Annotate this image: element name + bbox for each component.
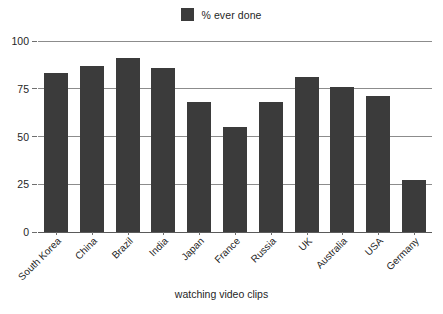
x-axis-tick-label: Australia — [315, 236, 350, 271]
bar — [80, 66, 104, 232]
x-axis-tick-label: France — [213, 236, 242, 265]
x-axis-tick-mark — [378, 232, 379, 235]
y-axis-tick-mark — [32, 88, 37, 89]
y-axis-tick-label: 25 — [17, 179, 29, 190]
bar — [259, 102, 283, 232]
x-axis-tick-mark — [235, 232, 236, 235]
plot-area: 0255075100 — [38, 41, 432, 232]
bar-series — [38, 41, 432, 232]
y-axis-tick-label: 100 — [11, 36, 29, 47]
x-axis-tick-mark — [307, 232, 308, 235]
chart-legend: % ever done — [0, 8, 443, 21]
x-axis-tick-mark — [199, 232, 200, 235]
x-axis-tick-label: India — [148, 236, 170, 258]
x-axis-tick-mark — [128, 232, 129, 235]
y-axis-tick-label: 0 — [23, 227, 29, 238]
bar — [366, 96, 390, 232]
legend-entry: % ever done — [181, 8, 261, 21]
x-axis-tick-label: Brazil — [110, 236, 135, 261]
x-axis-tick-label: China — [73, 236, 99, 262]
x-axis-tick-mark — [92, 232, 93, 235]
x-axis-tick-label: South Korea — [17, 236, 63, 282]
x-axis-tick-mark — [414, 232, 415, 235]
legend-swatch-pct-ever-done — [181, 8, 194, 21]
bar-chart: % ever done 0255075100 South KoreaChinaB… — [0, 0, 443, 314]
x-axis-tick-label: Germany — [385, 236, 421, 272]
bar — [151, 68, 175, 232]
y-axis-tick-label: 50 — [17, 131, 29, 142]
x-axis-tick-label: Russia — [249, 236, 278, 265]
y-axis-tick-label: 75 — [17, 84, 29, 95]
x-axis-tick-label: Japan — [180, 236, 206, 262]
legend-label: % ever done — [201, 9, 261, 21]
x-axis-tick-mark — [342, 232, 343, 235]
bar — [330, 87, 354, 232]
bar — [44, 73, 68, 232]
y-axis-tick-mark — [32, 184, 37, 185]
bar — [116, 58, 140, 232]
x-axis-ticks: South KoreaChinaBrazilIndiaJapanFranceRu… — [38, 234, 432, 286]
y-axis-tick-mark — [32, 136, 37, 137]
bar — [295, 77, 319, 232]
x-axis-title: watching video clips — [0, 288, 443, 300]
bar — [402, 180, 426, 232]
x-axis-tick-label: USA — [364, 236, 386, 258]
bar — [223, 127, 247, 232]
x-axis-tick-label: UK — [297, 236, 314, 253]
y-axis-tick-mark — [32, 41, 37, 42]
y-axis-tick-mark — [32, 232, 37, 233]
bar — [187, 102, 211, 232]
x-axis-tick-mark — [163, 232, 164, 235]
